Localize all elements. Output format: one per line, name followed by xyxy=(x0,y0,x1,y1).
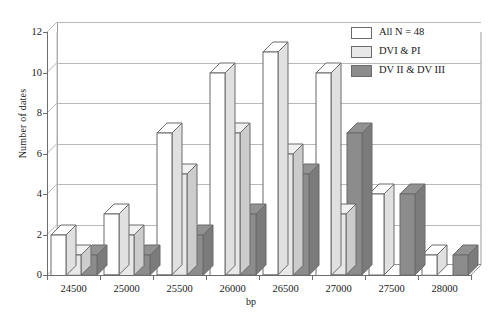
x-tick-label: 28000 xyxy=(431,283,457,294)
y-tick-mark xyxy=(43,235,47,236)
y-tick-label: 12 xyxy=(32,27,43,38)
legend-item: DVI & PI xyxy=(351,45,445,58)
x-tick-mark xyxy=(259,275,260,280)
legend-label: All N = 48 xyxy=(379,27,424,38)
legend-item: DV II & DV III xyxy=(351,64,445,77)
bar xyxy=(400,184,425,275)
legend-label: DV II & DV III xyxy=(379,65,445,76)
y-tick-mark xyxy=(43,73,47,74)
x-tick-mark xyxy=(471,275,472,280)
y-tick-label: 0 xyxy=(37,270,42,281)
x-tick-mark xyxy=(418,275,419,280)
y-tick-label: 10 xyxy=(32,67,43,78)
bar xyxy=(104,204,129,275)
legend-swatch xyxy=(351,46,372,58)
legend-item: All N = 48 xyxy=(351,26,445,39)
y-tick-label: 8 xyxy=(37,108,42,119)
bar xyxy=(51,225,76,276)
bar xyxy=(369,184,394,275)
x-tick-mark xyxy=(153,275,154,280)
x-tick-label: 26500 xyxy=(272,283,298,294)
x-tick-mark xyxy=(365,275,366,280)
x-tick-mark xyxy=(100,275,101,280)
bar xyxy=(453,245,478,275)
x-tick-label: 27000 xyxy=(325,283,351,294)
x-tick-label: 27500 xyxy=(378,283,404,294)
y-tick-mark xyxy=(43,154,47,155)
y-tick-mark xyxy=(43,113,47,114)
y-axis-line xyxy=(47,32,48,275)
legend-swatch xyxy=(351,65,372,77)
gridline xyxy=(57,22,481,23)
y-axis-title: Number of dates xyxy=(17,64,28,184)
x-tick-label: 26000 xyxy=(219,283,245,294)
y-tick-mark xyxy=(43,194,47,195)
x-tick-label: 25000 xyxy=(113,283,139,294)
bar xyxy=(263,42,288,275)
x-tick-mark xyxy=(47,275,48,280)
x-axis-title: bp xyxy=(0,296,502,307)
x-tick-label: 24500 xyxy=(60,283,86,294)
legend: All N = 48DVI & PIDV II & DV III xyxy=(351,26,445,83)
y-tick-label: 4 xyxy=(37,189,42,200)
y-tick-mark xyxy=(43,32,47,33)
x-tick-mark xyxy=(206,275,207,280)
bar-chart: Number of dates bp 024681012 24500250002… xyxy=(0,0,502,319)
bar xyxy=(316,63,341,276)
y-tick-label: 6 xyxy=(37,148,42,159)
bar xyxy=(210,63,235,276)
legend-swatch xyxy=(351,27,372,39)
x-tick-mark xyxy=(312,275,313,280)
bar xyxy=(157,123,182,275)
legend-label: DVI & PI xyxy=(379,46,420,57)
x-tick-label: 25500 xyxy=(166,283,192,294)
bar xyxy=(422,245,447,275)
y-tick-label: 2 xyxy=(37,229,42,240)
